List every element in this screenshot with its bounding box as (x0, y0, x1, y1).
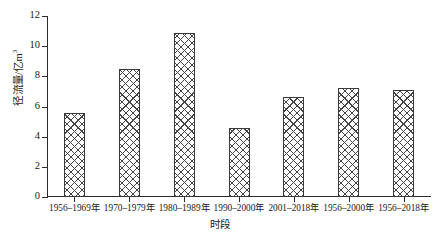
y-tick-label: 8 (18, 70, 40, 80)
runoff-bar-chart: 径流量/亿m3 024681012 1956–1969年1970–1979年19… (0, 0, 440, 235)
bar-1956–2018年 (393, 90, 414, 197)
bar-1956–1969年 (64, 113, 85, 197)
y-tick-mark (42, 197, 48, 198)
x-tick-mark (239, 197, 240, 202)
x-tick-mark (74, 197, 75, 202)
x-tick-mark (129, 197, 130, 202)
bar-2001–2018年 (283, 97, 304, 197)
y-tick-label: 2 (18, 161, 40, 171)
y-tick-label: 6 (18, 101, 40, 111)
y-tick-label: 10 (18, 40, 40, 50)
y-tick-label: 12 (18, 10, 40, 20)
bar-1956–2000年 (338, 88, 359, 197)
x-axis-label: 时段 (0, 216, 440, 231)
bar-1980–1989年 (174, 33, 195, 197)
x-tick-mark (184, 197, 185, 202)
x-tick-mark (294, 197, 295, 202)
x-tick-mark (404, 197, 405, 202)
y-tick-label: 0 (18, 191, 40, 201)
bar-1970–1979年 (119, 69, 140, 197)
bar-1990–2000年 (229, 128, 250, 197)
x-tick-mark (349, 197, 350, 202)
x-tick-label: 1956–2018年 (366, 203, 440, 214)
plot-area (47, 16, 431, 197)
y-tick-label: 4 (18, 131, 40, 141)
